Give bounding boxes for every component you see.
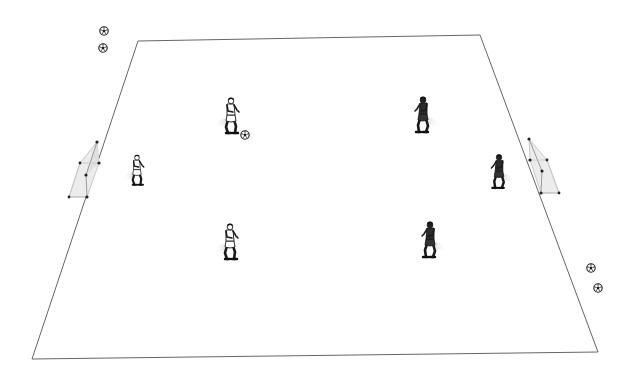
pitch-boundary [32, 35, 598, 359]
ball-top-left-2 [99, 44, 107, 52]
ball-bottom-right-1 [587, 264, 595, 272]
pitch-canvas [0, 0, 633, 376]
drill-diagram [0, 0, 633, 376]
player-ball [241, 131, 249, 139]
ball-top-left-1 [100, 27, 108, 35]
ball-bottom-right-2 [594, 284, 602, 292]
